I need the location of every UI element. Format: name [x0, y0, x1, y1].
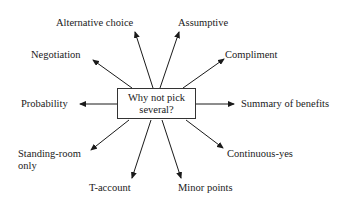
node-minor-points: Minor points: [178, 182, 233, 194]
node-alternative-choice: Alternative choice: [56, 17, 133, 29]
node-summary-of-benefits: Summary of benefits: [241, 98, 329, 110]
arrow-standing-room-only: [91, 120, 129, 150]
node-standing-room-only-line1: Standing-room: [18, 148, 81, 160]
arrow-assumptive: [160, 32, 179, 88]
node-negotiation: Negotiation: [31, 49, 81, 61]
arrow-alternative-choice: [135, 32, 153, 88]
arrow-negotiation: [93, 60, 132, 88]
node-probability: Probability: [21, 98, 68, 110]
node-t-account: T-account: [89, 182, 131, 194]
arrow-continuous-yes: [186, 120, 223, 148]
node-assumptive: Assumptive: [178, 17, 228, 29]
central-question-line2: several?: [118, 104, 195, 116]
central-question-line1: Why not pick: [118, 92, 195, 104]
node-standing-room-only: Standing-room only: [18, 148, 81, 172]
node-compliment: Compliment: [225, 49, 278, 61]
arrow-compliment: [183, 59, 224, 88]
arrow-t-account: [132, 120, 151, 178]
node-continuous-yes: Continuous-yes: [227, 148, 293, 160]
arrow-minor-points: [162, 120, 181, 178]
node-standing-room-only-line2: only: [18, 160, 81, 172]
central-question-box: Why not pick several?: [117, 88, 196, 119]
diagram-canvas: Why not pick several? Alternative choice…: [0, 0, 351, 209]
